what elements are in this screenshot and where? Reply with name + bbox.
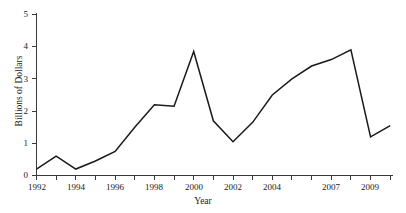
x-tick-label-2000: 2000 (174, 182, 214, 192)
y-tick-label-5: 5 (14, 9, 28, 19)
x-tick-label-1998: 1998 (134, 182, 174, 192)
x-tick-label-2007: 2007 (311, 182, 351, 192)
x-axis-ticks (37, 176, 391, 181)
x-tick-label-2004: 2004 (252, 182, 292, 192)
x-tick-label-1994: 1994 (56, 182, 96, 192)
y-axis-title: Billions of Dollars (14, 21, 24, 161)
x-tick-label-1996: 1996 (95, 182, 135, 192)
x-tick-label-1992: 1992 (17, 182, 57, 192)
data-series-line (37, 50, 391, 169)
y-tick-label-0: 0 (14, 170, 28, 180)
x-tick-label-2002: 2002 (213, 182, 253, 192)
x-tick-label-2009: 2009 (350, 182, 390, 192)
x-axis-title: Year (0, 196, 406, 206)
line-chart: 0 1 2 3 4 5 1992 1994 1996 1998 2000 200… (0, 0, 406, 213)
y-axis-ticks (32, 15, 37, 176)
